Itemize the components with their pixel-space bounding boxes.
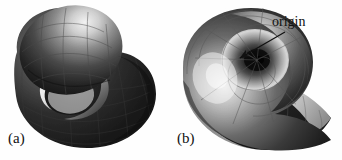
figure-container: (a)	[0, 0, 342, 160]
origin-arrow	[240, 32, 285, 58]
subfigure-label-a: (a)	[8, 131, 25, 146]
shell-surface-a	[0, 0, 171, 160]
origin-annotation	[171, 0, 342, 160]
origin-label: origin	[272, 15, 305, 29]
figure-panel-b: origin (b)	[171, 0, 342, 160]
figure-panel-a: (a)	[0, 0, 171, 160]
subfigure-label-b: (b)	[177, 131, 195, 146]
